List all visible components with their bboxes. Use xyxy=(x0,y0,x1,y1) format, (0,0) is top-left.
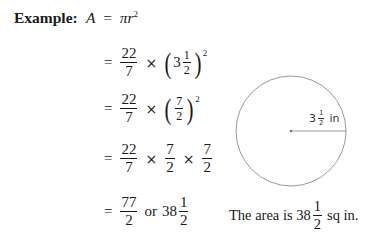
equals-sign: = xyxy=(104,100,112,117)
fraction-1-2: 1 2 xyxy=(183,49,191,76)
equals-sign: = xyxy=(104,54,112,71)
fraction-22-7: 22 7 xyxy=(120,46,137,79)
fraction-22-7: 22 7 xyxy=(120,92,137,125)
radius-label: 3 1 2 in xyxy=(309,110,340,127)
caption-fraction: 1 2 xyxy=(313,199,322,231)
fraction-7-2: 7 2 xyxy=(202,142,212,175)
times-sign: × xyxy=(183,151,195,167)
fraction-7-2: 7 2 xyxy=(175,95,183,122)
equals-sign: = xyxy=(104,203,112,220)
area-formula: A = πr2 xyxy=(86,9,138,27)
circle-diagram: 3 1 2 in xyxy=(233,74,353,196)
times-sign: × xyxy=(145,151,157,167)
times-sign: × xyxy=(145,55,157,71)
fraction-22-7: 22 7 xyxy=(120,142,137,175)
area-variable: A xyxy=(86,9,95,26)
left-paren: ( xyxy=(165,94,172,124)
equals-sign: = xyxy=(103,9,112,26)
whole-number: 38 xyxy=(162,203,177,220)
right-paren: ) xyxy=(187,94,194,124)
exponent: 2 xyxy=(134,9,139,19)
times-sign: × xyxy=(145,101,157,117)
step-3: = 22 7 × 7 2 × 7 2 xyxy=(104,142,214,175)
fraction-7-2: 7 2 xyxy=(165,142,175,175)
exponent: 2 xyxy=(195,94,200,104)
radius-fraction: 1 2 xyxy=(318,110,324,127)
or-text: or xyxy=(144,203,157,220)
area-caption: The area is 38 1 2 sq in. xyxy=(229,199,358,231)
right-paren: ) xyxy=(194,48,201,78)
left-paren: ( xyxy=(165,48,172,78)
equals-sign: = xyxy=(104,150,112,167)
fraction-1-2: 1 2 xyxy=(179,195,189,228)
circle-icon xyxy=(233,74,353,192)
whole-number: 3 xyxy=(173,54,181,71)
step-4: = 77 2 or 38 1 2 xyxy=(104,195,190,228)
example-label: Example: xyxy=(14,9,78,27)
center-point xyxy=(290,130,293,133)
exponent: 2 xyxy=(203,48,208,58)
step-1: = 22 7 × ( 3 1 2 ) 2 xyxy=(104,46,207,79)
fraction-77-2: 77 2 xyxy=(120,195,137,228)
step-2: = 22 7 × ( 7 2 ) 2 xyxy=(104,92,200,125)
